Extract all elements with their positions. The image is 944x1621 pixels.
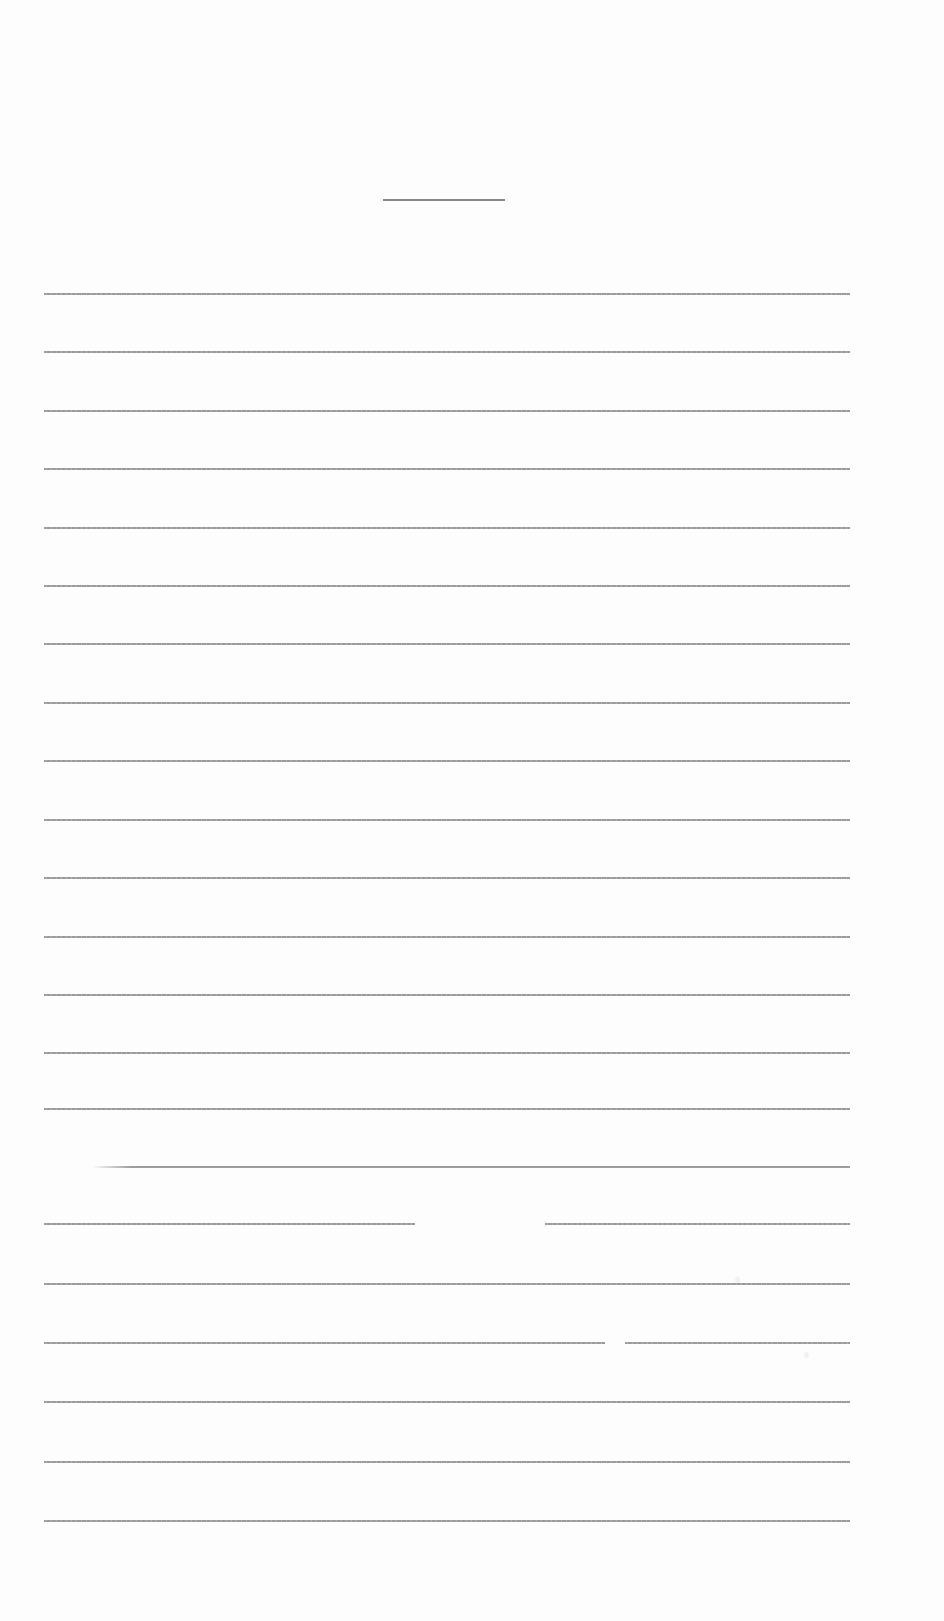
ruled-line — [44, 410, 850, 412]
ruled-line — [44, 877, 850, 879]
ruled-line — [44, 643, 850, 645]
ruled-line — [92, 1166, 850, 1168]
ruled-line — [44, 1342, 605, 1344]
ruled-line — [625, 1342, 850, 1344]
ruled-line — [44, 468, 850, 470]
title-rule — [383, 199, 505, 201]
ruled-line — [44, 1223, 415, 1225]
ruled-line — [44, 994, 850, 996]
bleed-through-mark — [600, 1080, 944, 1580]
ruled-line — [44, 702, 850, 704]
lined-page: blank lined page (scanned) — [0, 0, 944, 1621]
ruled-line — [44, 760, 850, 762]
ruled-line — [44, 585, 850, 587]
ruled-line — [44, 527, 850, 529]
ruled-line — [44, 1283, 850, 1285]
ruled-line — [44, 351, 850, 353]
ruled-line — [44, 1520, 850, 1522]
ruled-line — [44, 936, 850, 938]
ruled-line — [44, 1461, 850, 1463]
ruled-line — [44, 1401, 850, 1403]
ruled-line — [44, 1052, 850, 1054]
ruled-line — [44, 1108, 850, 1110]
ruled-line — [545, 1223, 850, 1225]
ruled-line — [44, 293, 850, 295]
ruled-line — [44, 819, 850, 821]
